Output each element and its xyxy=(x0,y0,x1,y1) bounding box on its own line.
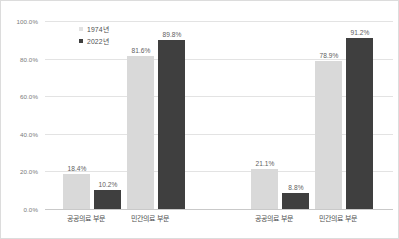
legend-label-1974: 1974년 xyxy=(87,24,109,34)
y-axis-tick-60: 60.0% xyxy=(0,93,38,100)
plot-area: 18.4% 10.2% 81.6% 89.8% 21.1% 8.8% 78.9%… xyxy=(45,21,393,209)
bar-value-2022-group-2: 89.8% xyxy=(154,31,190,38)
x-axis-category-1: 공공의료 부문 xyxy=(52,213,120,223)
legend-swatch-icon-2022 xyxy=(79,39,83,43)
bar-1974-group-1[interactable] xyxy=(63,174,90,209)
y-axis-tick-40: 40.0% xyxy=(0,130,38,137)
y-axis-tick-80: 80.0% xyxy=(0,55,38,62)
bar-group-1: 18.4% 10.2% xyxy=(63,21,125,209)
legend-label-2022: 2022년 xyxy=(87,36,109,46)
bar-group-3: 21.1% 8.8% xyxy=(251,21,313,209)
y-axis-tick-0: 0.0% xyxy=(0,206,38,213)
x-axis-category-2: 민간의료 부문 xyxy=(116,213,184,223)
bar-group-2: 81.6% 89.8% xyxy=(127,21,189,209)
bar-value-2022-group-4: 91.2% xyxy=(342,29,378,36)
bar-1974-group-2[interactable] xyxy=(127,56,154,209)
bar-value-2022-group-1: 10.2% xyxy=(90,181,126,188)
bar-group-4: 78.9% 91.2% xyxy=(315,21,377,209)
bar-2022-group-1[interactable] xyxy=(94,190,121,209)
x-axis-category-4: 민간의료 부문 xyxy=(304,213,372,223)
bar-1974-group-4[interactable] xyxy=(315,61,342,209)
y-axis-tick-20: 20.0% xyxy=(0,168,38,175)
bar-value-1974-group-3: 21.1% xyxy=(247,160,283,167)
bar-value-1974-group-4: 78.9% xyxy=(311,52,347,59)
legend-swatch-icon-1974 xyxy=(79,27,83,31)
bar-2022-group-2[interactable] xyxy=(158,40,185,209)
bar-2022-group-4[interactable] xyxy=(346,38,373,210)
bar-1974-group-3[interactable] xyxy=(251,169,278,209)
bar-value-1974-group-2: 81.6% xyxy=(123,47,159,54)
chart-legend: 1974년 2022년 xyxy=(79,25,109,45)
x-axis-category-3: 공공의료 부문 xyxy=(240,213,308,223)
bar-value-1974-group-1: 18.4% xyxy=(59,165,95,172)
y-axis-tick-100: 100.0% xyxy=(0,18,38,25)
bar-2022-group-3[interactable] xyxy=(282,193,309,210)
bar-chart: 100.0% 80.0% 60.0% 40.0% 20.0% 0.0% 18.4… xyxy=(0,0,399,239)
legend-item-1974[interactable]: 1974년 xyxy=(79,25,109,33)
bar-value-2022-group-3: 8.8% xyxy=(278,184,314,191)
axis-baseline xyxy=(45,209,393,210)
legend-item-2022[interactable]: 2022년 xyxy=(79,37,109,45)
